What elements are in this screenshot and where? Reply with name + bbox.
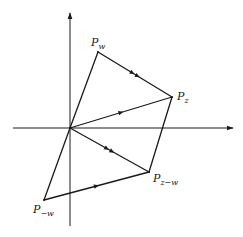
vertex-p-w <box>97 51 99 53</box>
label-p-z-minus-w: Pz−w <box>153 173 178 187</box>
vertex-p-z <box>171 96 173 98</box>
arrow-icon <box>118 111 123 115</box>
label-p-w: Pw <box>91 37 105 51</box>
segment-pz-to-pzmw <box>149 97 172 172</box>
segment-origin-to-pmw <box>44 128 70 200</box>
segment-origin-to-pzmw <box>70 128 149 172</box>
vector-diagram <box>0 0 243 237</box>
label-p-minus-w: P−w <box>33 204 54 218</box>
label-p-z: Pz <box>177 91 189 105</box>
segment-pw-to-pz <box>98 52 172 97</box>
vertex-p-minus-w <box>43 199 45 201</box>
direction-arrows <box>94 70 140 189</box>
vertex-p-z-minus-w <box>148 171 150 173</box>
segment-origin-to-pw <box>70 52 98 128</box>
